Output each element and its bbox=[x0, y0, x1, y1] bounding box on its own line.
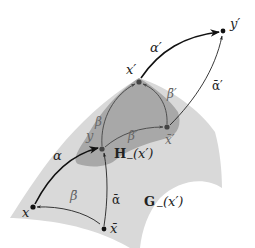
diagram-canvas: x x̄ y x′ x̄′ y′ α ᾱ β̄ β β′ β̄′ α′ ᾱ′ H… bbox=[0, 0, 255, 248]
label-beta-prime: β′ bbox=[127, 129, 138, 143]
svg-text:H: H bbox=[114, 146, 126, 161]
svg-text:(x′): (x′) bbox=[163, 194, 183, 209]
label-beta: β bbox=[94, 115, 102, 129]
point-x-prime bbox=[136, 79, 141, 84]
label-x-prime: x′ bbox=[126, 62, 136, 77]
label-x-bar-prime: x̄′ bbox=[165, 133, 175, 147]
label-y-prime: y′ bbox=[229, 16, 240, 31]
point-x bbox=[30, 204, 35, 209]
label-y: y bbox=[85, 128, 94, 143]
label-region-G: G − (x′) bbox=[144, 194, 183, 211]
point-x-bar-prime bbox=[164, 124, 169, 129]
label-x: x bbox=[22, 205, 30, 220]
point-y-prime bbox=[221, 29, 226, 34]
label-alpha-bar: ᾱ bbox=[112, 193, 120, 207]
svg-text:G: G bbox=[144, 194, 155, 209]
label-beta-bar-prime: β̄′ bbox=[166, 87, 177, 101]
svg-text:(x′): (x′) bbox=[133, 146, 153, 161]
label-region-H: H − (x′) bbox=[114, 146, 153, 163]
point-y bbox=[99, 146, 104, 151]
label-alpha: α bbox=[53, 148, 62, 163]
arrow-alpha-prime bbox=[141, 32, 219, 78]
label-beta-bar: β̄ bbox=[69, 188, 78, 203]
point-x-bar bbox=[102, 227, 107, 232]
label-alpha-bar-prime: ᾱ′ bbox=[212, 79, 223, 93]
label-x-bar: x̄ bbox=[110, 221, 118, 236]
label-alpha-prime: α′ bbox=[150, 40, 162, 55]
